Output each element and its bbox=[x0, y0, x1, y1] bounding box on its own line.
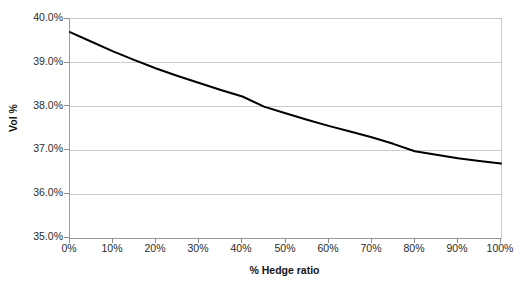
y-axis-title: Vol % bbox=[7, 83, 19, 153]
x-axis-tick-label-0: 0% bbox=[46, 243, 92, 254]
x-axis-tick-label-20: 20% bbox=[132, 243, 178, 254]
x-axis-tick-label-10: 10% bbox=[89, 243, 135, 254]
x-axis-tick-label-70: 70% bbox=[348, 243, 394, 254]
plot-area bbox=[69, 18, 502, 239]
x-axis-tick-label-80: 80% bbox=[391, 243, 437, 254]
y-axis-tick-label-40: 40.0% bbox=[8, 12, 63, 23]
x-axis-tick-label-60: 60% bbox=[305, 243, 351, 254]
x-axis-tick-label-100: 100% bbox=[477, 243, 521, 254]
x-axis-title: % Hedge ratio bbox=[69, 264, 500, 276]
series-line-vol bbox=[70, 19, 501, 238]
x-axis-tick-label-90: 90% bbox=[434, 243, 480, 254]
y-axis-tick-label-36: 36.0% bbox=[8, 187, 63, 198]
vol-vs-hedge-ratio-chart: 40.0% 39.0% 38.0% 37.0% 36.0% 35.0% 0% 1… bbox=[0, 0, 521, 293]
y-axis-tick-label-39: 39.0% bbox=[8, 56, 63, 67]
x-axis-tick-label-30: 30% bbox=[175, 243, 221, 254]
x-axis-tick-label-50: 50% bbox=[262, 243, 308, 254]
x-axis-tick-label-40: 40% bbox=[218, 243, 264, 254]
y-axis-tick-label-35: 35.0% bbox=[8, 231, 63, 242]
